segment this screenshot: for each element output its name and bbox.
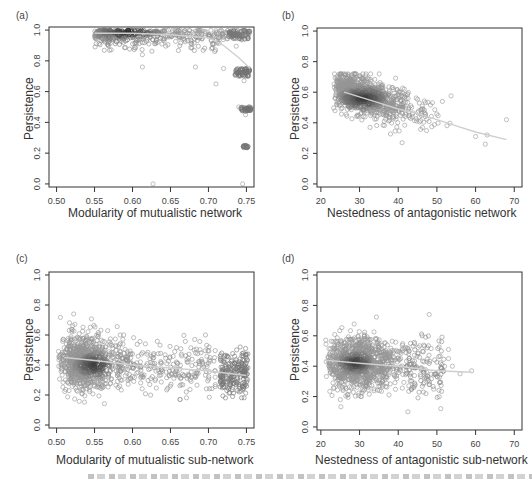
- svg-text:20: 20: [316, 439, 326, 449]
- svg-text:0.2: 0.2: [32, 147, 42, 160]
- scatter-plot-c: 0.00.20.40.60.81.00.500.550.600.650.700.…: [0, 243, 266, 458]
- panel-d: (d) Persistence 0.00.20.40.60.81.0203040…: [266, 243, 532, 483]
- svg-text:0.8: 0.8: [300, 55, 310, 68]
- svg-text:1.0: 1.0: [32, 269, 42, 282]
- panel-a: (a) Persistence 0.00.20.40.60.81.00.500.…: [0, 0, 266, 240]
- svg-text:0.6: 0.6: [300, 86, 310, 99]
- panel-c: (c) Persistence 0.00.20.40.60.81.00.500.…: [0, 243, 266, 483]
- x-axis-label: Modularity of mutualistic network: [68, 206, 242, 220]
- svg-text:0.55: 0.55: [86, 437, 104, 447]
- x-axis-label: Modularity of mutualistic sub-network: [56, 453, 253, 467]
- svg-text:0.50: 0.50: [48, 437, 66, 447]
- svg-text:20: 20: [316, 196, 326, 206]
- svg-text:0.6: 0.6: [300, 330, 310, 343]
- figure-caption: [88, 474, 532, 479]
- svg-text:0.0: 0.0: [32, 419, 42, 432]
- data-points: [56, 312, 250, 406]
- svg-text:0.65: 0.65: [162, 437, 180, 447]
- svg-text:0.8: 0.8: [300, 299, 310, 312]
- svg-text:0.4: 0.4: [32, 359, 42, 372]
- svg-text:50: 50: [432, 196, 442, 206]
- svg-text:0.2: 0.2: [300, 390, 310, 403]
- svg-text:0.8: 0.8: [32, 55, 42, 68]
- plot-frame: [49, 27, 254, 187]
- svg-text:0.75: 0.75: [238, 437, 256, 447]
- svg-text:30: 30: [355, 439, 365, 449]
- svg-text:1.0: 1.0: [300, 269, 310, 282]
- scatter-plot-d: 0.00.20.40.60.81.0203040506070: [266, 243, 532, 458]
- panel-b: (b) Persistence 0.00.20.40.60.81.0203040…: [266, 0, 532, 240]
- svg-text:50: 50: [432, 439, 442, 449]
- svg-text:40: 40: [393, 439, 403, 449]
- svg-text:0.2: 0.2: [300, 147, 310, 160]
- svg-text:40: 40: [393, 196, 403, 206]
- svg-text:0.8: 0.8: [32, 299, 42, 312]
- svg-text:70: 70: [509, 439, 519, 449]
- svg-text:0.70: 0.70: [200, 196, 218, 206]
- svg-text:60: 60: [471, 439, 481, 449]
- svg-text:0.0: 0.0: [300, 178, 310, 191]
- x-axis-label: Nestedness of antagonistic sub-network: [315, 453, 528, 467]
- svg-text:0.4: 0.4: [300, 360, 310, 373]
- svg-text:0.65: 0.65: [162, 196, 180, 206]
- svg-text:0.70: 0.70: [200, 437, 218, 447]
- svg-text:0.2: 0.2: [32, 389, 42, 402]
- svg-text:0.75: 0.75: [238, 196, 256, 206]
- svg-text:70: 70: [509, 196, 519, 206]
- svg-text:0.0: 0.0: [300, 421, 310, 434]
- svg-text:0.60: 0.60: [124, 437, 142, 447]
- svg-text:60: 60: [471, 196, 481, 206]
- svg-text:1.0: 1.0: [32, 24, 42, 37]
- x-axis-label: Nestedness of antagonistic network: [327, 206, 516, 220]
- svg-text:0.0: 0.0: [32, 178, 42, 191]
- svg-text:0.6: 0.6: [32, 85, 42, 98]
- data-points: [324, 312, 474, 414]
- svg-text:0.4: 0.4: [32, 116, 42, 129]
- svg-text:0.6: 0.6: [32, 329, 42, 342]
- scatter-plot-b: 0.00.20.40.60.81.0203040506070: [266, 0, 532, 225]
- data-points: [93, 28, 253, 186]
- svg-text:0.60: 0.60: [124, 196, 142, 206]
- data-points: [332, 72, 509, 146]
- scatter-plot-a: 0.00.20.40.60.81.00.500.550.600.650.700.…: [0, 0, 266, 225]
- svg-text:1.0: 1.0: [300, 25, 310, 38]
- svg-text:0.55: 0.55: [86, 196, 104, 206]
- svg-text:0.50: 0.50: [48, 196, 66, 206]
- svg-text:30: 30: [355, 196, 365, 206]
- svg-text:0.4: 0.4: [300, 117, 310, 130]
